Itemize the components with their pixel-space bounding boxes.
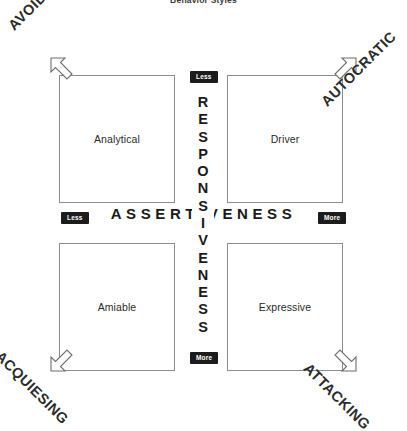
axis-label-responsiveness-letter: E — [192, 111, 214, 128]
axis-label-responsiveness-letter: S — [192, 319, 214, 336]
axis-label-responsiveness-letter: S — [192, 301, 214, 318]
axis-label-responsiveness: RESPONSIVENESS — [192, 85, 214, 345]
badge-responsiveness-less: Less — [190, 71, 218, 83]
axis-label-responsiveness-letter: O — [192, 163, 214, 180]
axis-label-responsiveness-letter: E — [192, 250, 214, 267]
axis-label-responsiveness-letter: I — [192, 215, 214, 232]
quadrant-analytical[interactable]: Analytical — [59, 75, 175, 203]
arrow-down-left-icon — [48, 340, 82, 374]
axis-label-responsiveness-letter: P — [192, 146, 214, 163]
badge-assertiveness-more: More — [318, 212, 346, 224]
badge-responsiveness-more: More — [190, 352, 218, 364]
arrow-up-left-icon — [48, 55, 82, 89]
quadrant-label-analytical: Analytical — [94, 133, 140, 145]
axis-label-responsiveness-letter: R — [192, 94, 214, 111]
axis-label-responsiveness-letter: S — [192, 129, 214, 146]
badge-assertiveness-less: Less — [61, 212, 89, 224]
quadrant-label-amiable: Amiable — [98, 301, 137, 313]
behavior-styles-diagram: Behavior Styles Analytical Driver Amiabl… — [0, 0, 407, 431]
axis-label-responsiveness-letter: N — [192, 267, 214, 284]
arrow-down-right-icon — [325, 340, 359, 374]
page-title: Behavior Styles — [0, 0, 407, 5]
axis-label-responsiveness-letter: V — [192, 232, 214, 249]
axis-label-responsiveness-letter: S — [192, 198, 214, 215]
quadrant-label-driver: Driver — [271, 133, 300, 145]
axis-label-responsiveness-letter: E — [192, 284, 214, 301]
axis-label-responsiveness-letter: N — [192, 180, 214, 197]
quadrant-label-expressive: Expressive — [259, 301, 311, 313]
